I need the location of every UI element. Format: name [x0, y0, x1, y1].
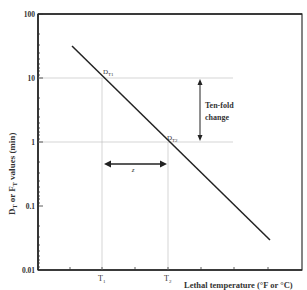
y-tick-100: 100: [24, 10, 36, 19]
z-label: z: [131, 166, 135, 174]
y-tick-1: 1: [31, 138, 35, 147]
ten-fold-label-line2: change: [205, 113, 229, 122]
guide-lines: [38, 78, 233, 270]
chart: 100 10 1 0.1 0.01 DT or FT values (min) …: [0, 0, 307, 290]
z-arrow: [104, 161, 167, 168]
ten-fold-arrow: [198, 79, 203, 141]
label-DT1: DT1: [103, 68, 114, 77]
ten-fold-label-line1: Ten-fold: [205, 101, 234, 110]
label-DT2: DT2: [167, 134, 178, 143]
x-axis-label: Lethal temperature (°F or °C): [184, 280, 293, 290]
y-tick-10: 10: [28, 74, 36, 83]
y-tick-0.01: 0.01: [22, 266, 35, 275]
y-axis-label: DT or FT values (min): [7, 133, 18, 215]
x-tick-T1: T1: [98, 274, 106, 284]
y-tick-0.1: 0.1: [26, 202, 36, 211]
x-tick-T2: T2: [164, 274, 172, 284]
